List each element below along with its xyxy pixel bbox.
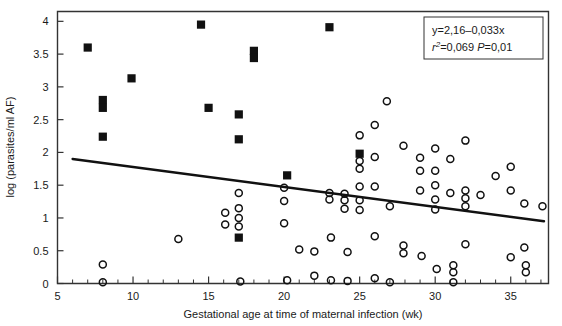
x-tick-label: 25 <box>354 290 366 302</box>
y-tick-label: 4 <box>42 15 48 27</box>
x-tick-label: 20 <box>278 290 290 302</box>
legend-box: y=2,16–0,033x r2=0,069 P=0,01 <box>424 17 543 59</box>
data-point-filled-square <box>127 74 135 82</box>
data-point-filled-square <box>235 110 243 118</box>
x-tick-label: 15 <box>202 290 214 302</box>
y-tick-label: 2 <box>42 146 48 158</box>
y-axis-title: log (parasites/ml AF) <box>4 97 16 198</box>
chart-canvas: 5101520253035 00.511.522.533.54 Gestatio… <box>0 0 562 326</box>
legend-stats: r2=0,069 P=0,01 <box>432 40 512 53</box>
data-point-filled-square <box>204 104 212 112</box>
x-tick-label: 30 <box>429 290 441 302</box>
data-point-filled-square <box>235 135 243 143</box>
data-point-filled-square <box>99 133 107 141</box>
data-point-filled-square <box>99 96 107 104</box>
y-tick-label: 1.5 <box>33 179 48 191</box>
x-tick-label: 5 <box>54 290 60 302</box>
y-tick-label: 0 <box>42 278 48 290</box>
data-point-filled-square <box>197 21 205 29</box>
scatter-plot-figure: 5101520253035 00.511.522.533.54 Gestatio… <box>0 0 562 326</box>
data-point-filled-square <box>250 47 258 55</box>
legend-p-value: =0,01 <box>484 41 512 53</box>
data-point-filled-square <box>84 43 92 51</box>
y-tick-label: 3 <box>42 81 48 93</box>
legend-equation: y=2,16–0,033x <box>432 24 505 36</box>
y-tick-label: 3.5 <box>33 48 48 60</box>
data-point-filled-square <box>99 104 107 112</box>
x-tick-label: 10 <box>127 290 139 302</box>
data-point-filled-square <box>235 234 243 242</box>
data-point-filled-square <box>356 150 364 158</box>
y-tick-label: 1 <box>42 212 48 224</box>
data-point-filled-square <box>325 23 333 31</box>
y-tick-label: 0.5 <box>33 245 48 257</box>
data-point-filled-square <box>250 54 258 62</box>
data-point-filled-square <box>283 171 291 179</box>
legend-r2-value: =0,069 <box>440 41 474 53</box>
y-tick-label: 2.5 <box>33 114 48 126</box>
x-axis-title: Gestational age at time of maternal infe… <box>183 308 422 320</box>
x-tick-label: 35 <box>505 290 517 302</box>
